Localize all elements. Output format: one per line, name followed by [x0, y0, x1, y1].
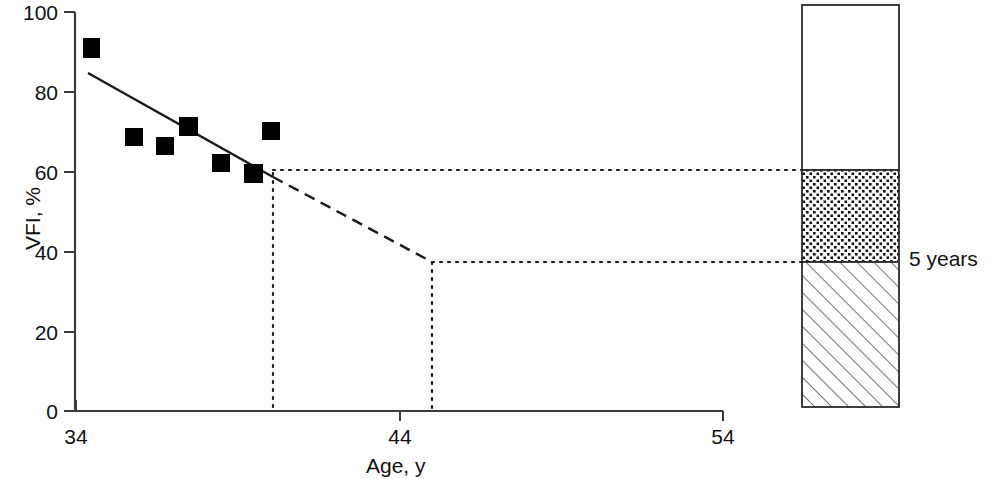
- x-axis-title: Age, y: [366, 455, 426, 476]
- data-point: [212, 154, 230, 172]
- vfi-loss-bar: [802, 5, 899, 407]
- regression-line-dashed: [273, 177, 432, 262]
- y-axis-ticks: [64, 12, 75, 411]
- data-point: [179, 117, 198, 136]
- y-tick-label-20: 20: [0, 322, 58, 343]
- x-tick-label-34: 34: [46, 426, 106, 447]
- y-axis-title: VFI, %: [22, 187, 43, 250]
- x-tick-label-54: 54: [693, 426, 753, 447]
- x-tick-label-44: 44: [370, 426, 430, 447]
- bar-segment-white: [802, 5, 899, 170]
- data-point-markers: [83, 38, 280, 183]
- bar-label-5-years: 5 years: [909, 248, 978, 269]
- y-tick-label-100: 100: [0, 2, 58, 23]
- bar-segment-hatched: [802, 262, 899, 407]
- data-point: [262, 122, 280, 140]
- data-point: [244, 164, 263, 183]
- data-point: [83, 38, 100, 58]
- y-tick-label-80: 80: [0, 82, 58, 103]
- y-tick-label-60: 60: [0, 162, 58, 183]
- bar-segment-dotted: [802, 170, 899, 262]
- data-point: [156, 137, 174, 155]
- y-tick-label-0: 0: [0, 401, 58, 422]
- chart-figure: 100 80 60 40 20 0 34 44 54 VFI, % Age, y…: [0, 0, 991, 479]
- chart-canvas: [0, 0, 991, 479]
- data-point: [125, 128, 143, 146]
